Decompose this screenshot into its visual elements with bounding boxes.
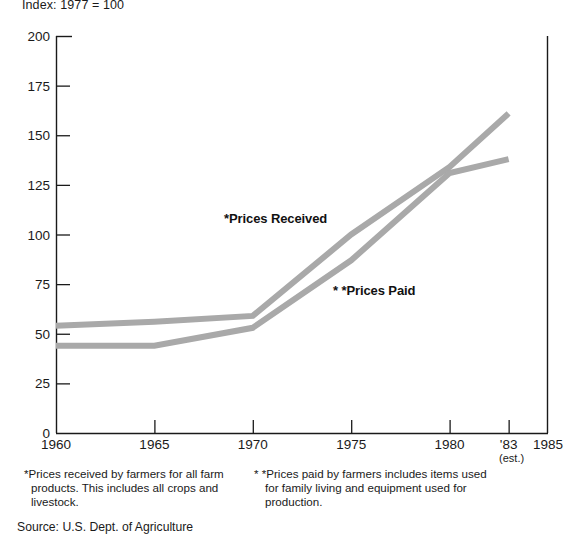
x-tick-label: 1985: [533, 437, 563, 452]
x-tick-label: 1970: [238, 437, 268, 452]
y-tick-label: 125: [2, 177, 50, 192]
y-axis-ticks: [56, 86, 70, 384]
axis-frame: [56, 36, 548, 434]
footnotes-block: *Prices received by farmers for all farm…: [0, 467, 573, 539]
x-tick-label: 1960: [41, 437, 71, 452]
y-tick-label: 75: [2, 277, 50, 292]
y-tick-label: 175: [2, 78, 50, 93]
chart-series-group: [56, 113, 509, 345]
chart-svg: [0, 0, 573, 460]
chart-page: Index: 1977 = 100 0255075100125150175200…: [0, 0, 573, 539]
source-credit: Source: U.S. Dept. of Agriculture: [17, 520, 193, 534]
y-tick-label: 100: [2, 227, 50, 242]
x-tick-label: 1980: [435, 437, 465, 452]
y-tick-label: 150: [2, 128, 50, 143]
x-tick-label: 1975: [336, 437, 366, 452]
y-tick-label: 50: [2, 326, 50, 341]
x-axis-ticks: [155, 420, 509, 433]
y-tick-label: 25: [2, 376, 50, 391]
footnote-prices-received: *Prices received by farmers for all farm…: [24, 467, 246, 510]
y-tick-label: 200: [2, 29, 50, 44]
series-label-prices-paid: * *Prices Paid: [333, 283, 415, 298]
series-line-prices-paid: [56, 159, 509, 346]
chart-plot-area: 0255075100125150175200 19601965197019751…: [0, 0, 573, 460]
footnote-prices-paid: * *Prices paid by farmers includes items…: [254, 467, 495, 510]
y-axis-labels: 0255075100125150175200: [0, 0, 50, 460]
x-tick-sublabel-est: (est.): [499, 452, 524, 464]
series-label-prices-received: *Prices Received: [224, 211, 327, 226]
x-tick-label: 1965: [139, 437, 169, 452]
x-tick-label: '83: [500, 437, 518, 452]
